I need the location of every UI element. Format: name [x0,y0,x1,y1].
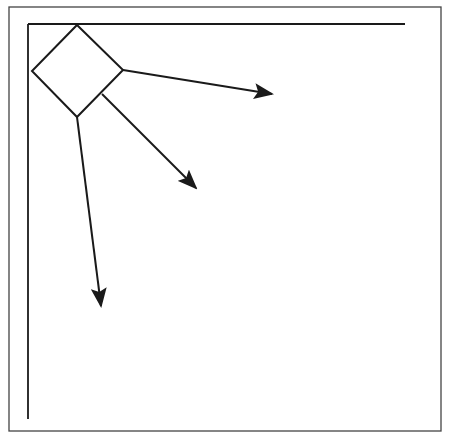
arrow-right [123,70,272,94]
arrow-diagonal [102,94,196,188]
diamond-shape [32,25,123,117]
arrows-group [77,70,272,306]
arrow-down [77,117,101,306]
diagram-canvas [0,0,451,443]
